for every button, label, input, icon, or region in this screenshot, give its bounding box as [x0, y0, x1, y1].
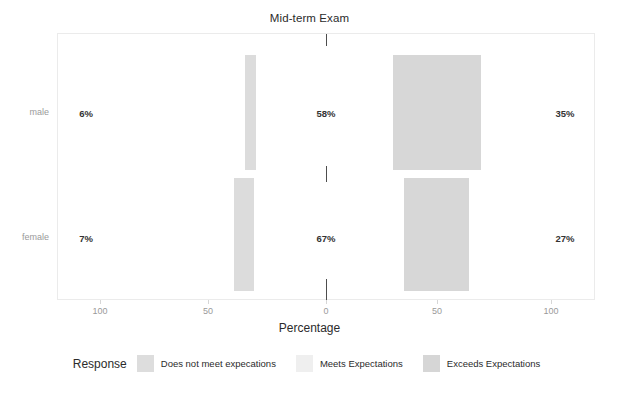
legend-item-exceeds[interactable]: Exceeds Expectations: [423, 355, 540, 372]
legend-swatch-does-not-meet-icon: [137, 355, 154, 372]
zero-line-tick-bottom: [326, 279, 327, 300]
chart-root: Mid-term Exam male female 6% 58% 35% 7% …: [0, 0, 619, 399]
pct-label-male-meets: 58%: [316, 108, 335, 119]
y-axis-label-female: female: [22, 232, 49, 242]
pct-label-male-does-not-meet: 6%: [79, 108, 93, 119]
x-tick-mark-pos50: [437, 300, 438, 304]
legend: Response Does not meet expecations Meets…: [0, 355, 619, 372]
legend-item-meets[interactable]: Meets Expectations: [296, 355, 417, 372]
pct-label-female-exceeds: 27%: [555, 233, 574, 244]
bar-male-exceeds: [393, 55, 481, 170]
x-tick-label-pos50: 50: [432, 306, 442, 316]
x-tick-label-neg50: 50: [203, 306, 213, 316]
legend-item-does-not-meet[interactable]: Does not meet expecations: [137, 355, 290, 372]
y-axis-labels: male female: [0, 33, 49, 300]
bar-female-does-not-meet: [234, 178, 254, 291]
pct-label-male-exceeds: 35%: [555, 108, 574, 119]
chart-title: Mid-term Exam: [0, 12, 619, 24]
x-tick-label-pos100: 100: [543, 306, 558, 316]
x-tick-mark-neg50: [208, 300, 209, 304]
x-axis-title: Percentage: [0, 321, 619, 335]
zero-line-tick-top: [326, 34, 327, 46]
legend-label-meets: Meets Expectations: [320, 358, 403, 369]
legend-title: Response: [73, 357, 127, 371]
y-axis-label-male: male: [29, 107, 49, 117]
x-tick-label-zero: 0: [323, 306, 328, 316]
plot-panel: 6% 58% 35% 7% 67% 27%: [57, 33, 595, 300]
x-tick-mark-pos100: [551, 300, 552, 304]
legend-swatch-exceeds-icon: [423, 355, 440, 372]
bar-female-exceeds: [404, 178, 469, 291]
legend-label-does-not-meet: Does not meet expecations: [161, 358, 276, 369]
x-tick-mark-neg100: [100, 300, 101, 304]
x-tick-label-neg100: 100: [92, 306, 107, 316]
pct-label-female-does-not-meet: 7%: [79, 233, 93, 244]
legend-label-exceeds: Exceeds Expectations: [447, 358, 540, 369]
zero-line-tick-middle: [326, 166, 327, 182]
bar-male-does-not-meet: [245, 55, 256, 170]
x-tick-mark-zero: [326, 300, 327, 304]
pct-label-female-meets: 67%: [316, 233, 335, 244]
legend-swatch-meets-icon: [296, 355, 313, 372]
